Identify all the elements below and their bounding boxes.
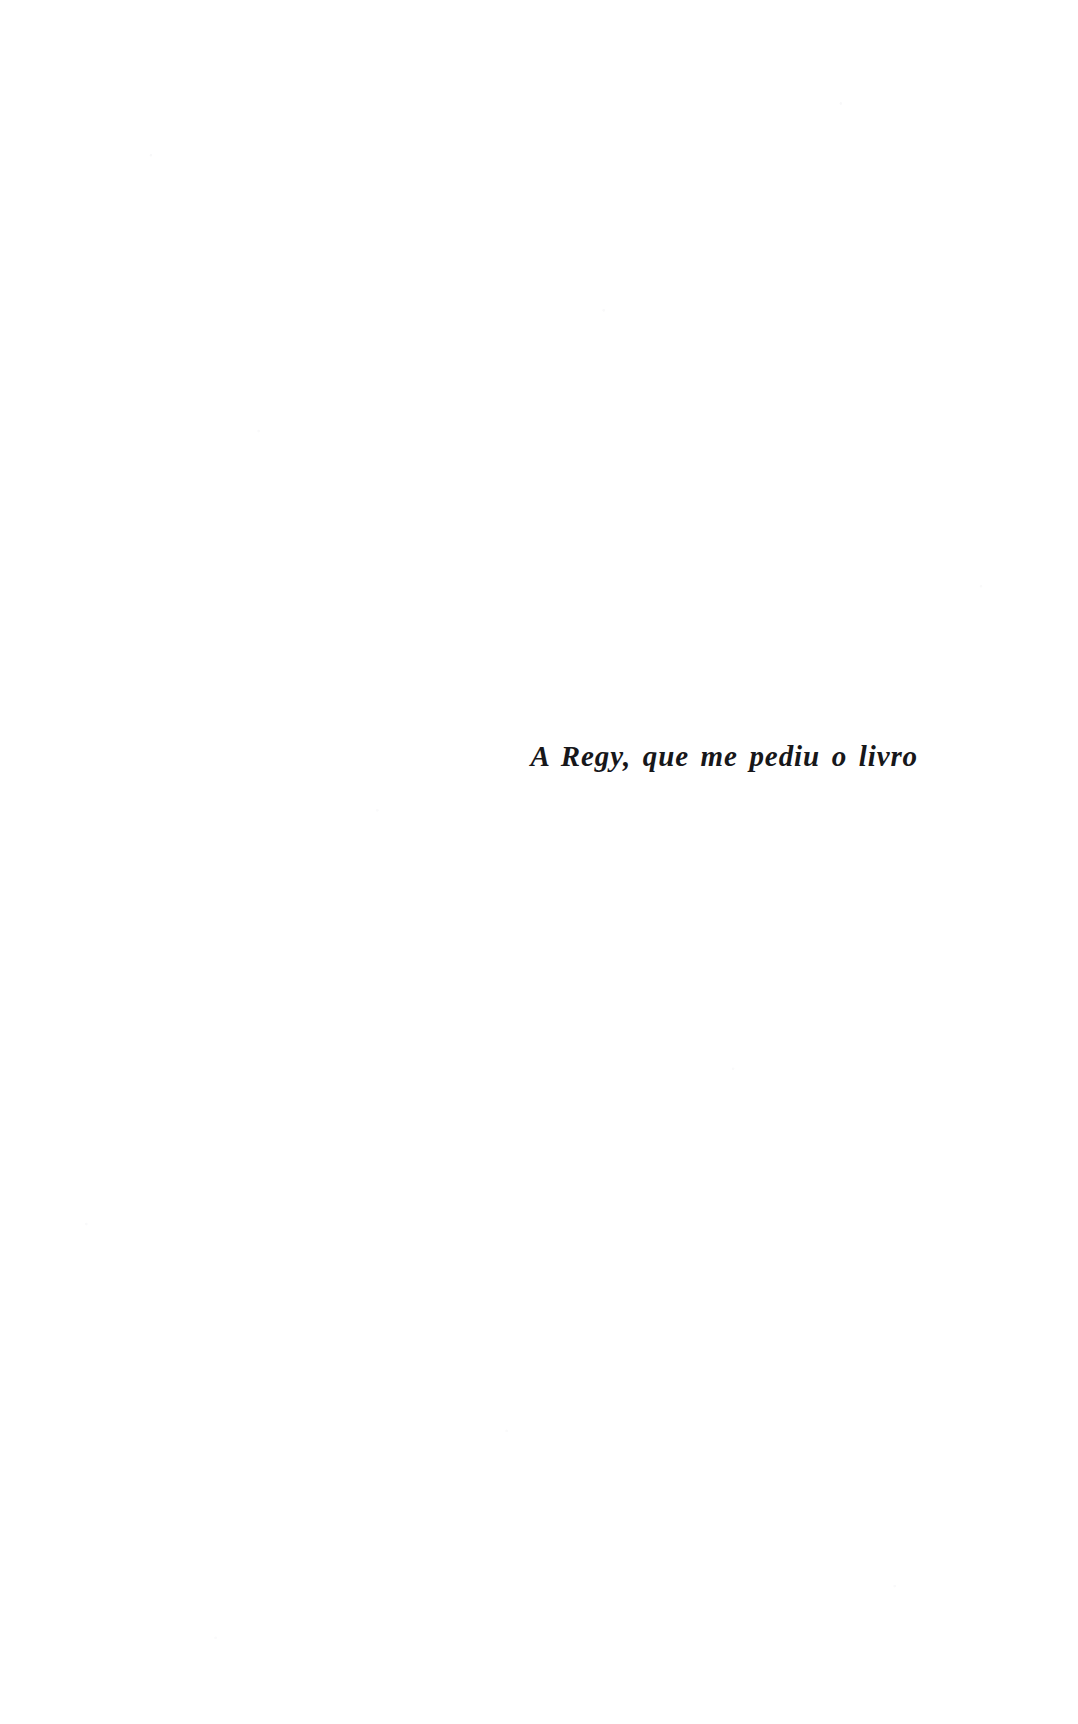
dedication-page: A Regy, que me pediu o livro: [0, 0, 1078, 1724]
paper-texture: [0, 0, 1078, 1724]
dedication-block: A Regy, que me pediu o livro: [0, 739, 918, 773]
dedication-text: A Regy, que me pediu o livro: [531, 739, 918, 773]
